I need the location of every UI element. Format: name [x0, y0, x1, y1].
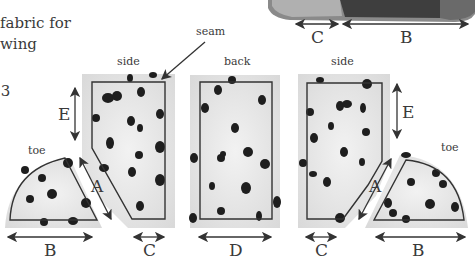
label-back: back	[224, 55, 250, 68]
caption-line-2: wing	[0, 35, 37, 53]
caption-line-1: fabric for	[0, 14, 71, 32]
dim-left-e: E	[58, 104, 70, 124]
dim-top-b: B	[400, 27, 413, 47]
label-toe-right: toe	[441, 141, 459, 154]
dim-right-c: C	[315, 240, 328, 260]
dim-left-b: B	[44, 240, 57, 260]
dim-left-a: A	[91, 176, 103, 196]
label-side-right: side	[331, 55, 354, 68]
label-side-left: side	[117, 55, 140, 68]
label-seam: seam	[196, 25, 225, 38]
dim-left-c: C	[143, 240, 156, 260]
dim-right-e: E	[402, 102, 414, 122]
back-fabric	[190, 75, 280, 228]
photo-top-right	[268, 0, 475, 22]
dim-back-d: D	[229, 240, 243, 260]
label-toe-left: toe	[28, 144, 46, 157]
dim-top-c: C	[311, 27, 324, 47]
dim-right-a: A	[369, 176, 381, 196]
caption-line-3: .3	[0, 82, 10, 100]
dim-right-b: B	[412, 240, 425, 260]
